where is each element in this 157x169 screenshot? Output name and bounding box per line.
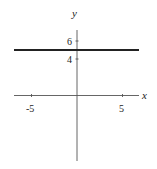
x-axis-label: x [141, 89, 147, 101]
y-tick-label-6: 6 [67, 36, 72, 47]
chart-canvas: y x 6 4 -5 5 [0, 0, 157, 169]
chart: y x 6 4 -5 5 [0, 0, 157, 169]
y-tick-label-4: 4 [67, 54, 72, 65]
x-tick-label-5: 5 [119, 103, 124, 114]
y-axis-label: y [71, 7, 77, 19]
x-tick-label-neg5: -5 [26, 103, 34, 114]
